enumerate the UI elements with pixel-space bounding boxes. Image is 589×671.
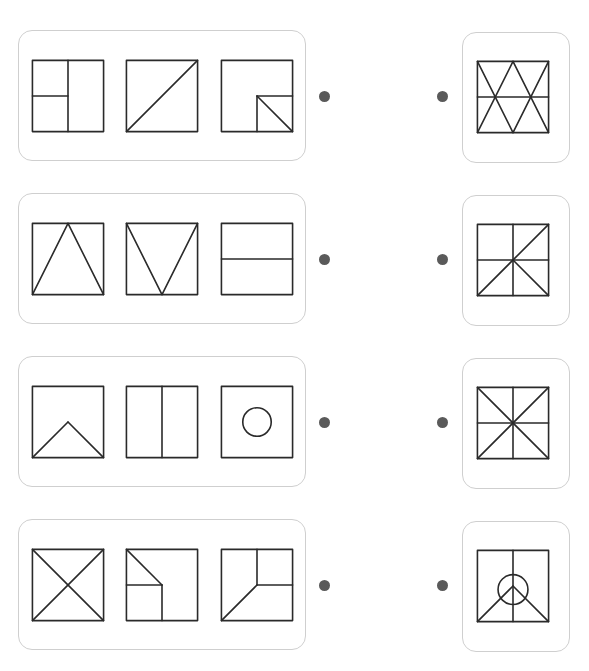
- row-1-left-3-figure[interactable]: [220, 59, 294, 133]
- left-connector-dot-row-1[interactable]: [319, 91, 330, 102]
- right-connector-dot-row-2[interactable]: [437, 254, 448, 265]
- row-2-left-2-figure[interactable]: [125, 222, 199, 296]
- row-3-left-2-figure[interactable]: [125, 385, 199, 459]
- row-3-left-1-figure[interactable]: [31, 385, 105, 459]
- left-connector-dot-row-3[interactable]: [319, 417, 330, 428]
- row-4-right-figure[interactable]: [476, 549, 550, 623]
- row-2-left-1-figure[interactable]: [31, 222, 105, 296]
- row-1-left-2-figure[interactable]: [125, 59, 199, 133]
- row-4-left-3-figure[interactable]: [220, 548, 294, 622]
- row-2-left-3-figure[interactable]: [220, 222, 294, 296]
- row-4-left-1-figure[interactable]: [31, 548, 105, 622]
- row-3-right-figure[interactable]: [476, 386, 550, 460]
- left-connector-dot-row-4[interactable]: [319, 580, 330, 591]
- row-3-left-3-figure[interactable]: [220, 385, 294, 459]
- row-4-left-2-figure[interactable]: [125, 548, 199, 622]
- row-1-left-1-figure[interactable]: [31, 59, 105, 133]
- left-connector-dot-row-2[interactable]: [319, 254, 330, 265]
- right-connector-dot-row-4[interactable]: [437, 580, 448, 591]
- right-connector-dot-row-3[interactable]: [437, 417, 448, 428]
- right-connector-dot-row-1[interactable]: [437, 91, 448, 102]
- row-1-right-figure[interactable]: [476, 60, 550, 134]
- row-2-right-figure[interactable]: [476, 223, 550, 297]
